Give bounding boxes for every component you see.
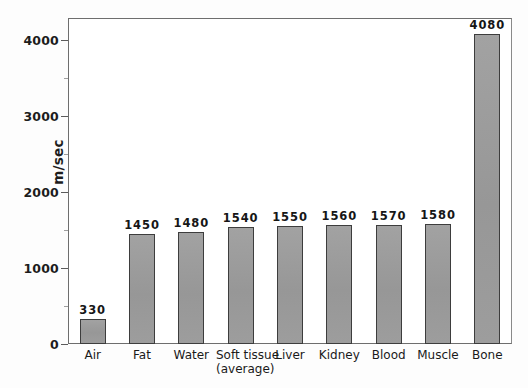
x-axis-label: Water: [167, 349, 216, 363]
bar-rect[interactable]: [425, 224, 451, 344]
plot-area: 01000200030004000 3301450148015401550156…: [68, 18, 512, 344]
bar-value-label: 1550: [272, 210, 308, 224]
y-tick-mark: [61, 116, 68, 117]
x-axis-label: Air: [68, 349, 117, 363]
bar-value-label: 4080: [470, 18, 506, 32]
y-minor-tick-mark: [64, 230, 68, 231]
x-axis-label-line: Muscle: [417, 348, 459, 362]
bar-rect[interactable]: [277, 226, 303, 344]
bar-item[interactable]: 330: [80, 303, 106, 344]
x-axis-label: Kidney: [315, 349, 364, 363]
y-tick-label: 3000: [23, 109, 59, 124]
x-axis-label-line: Fat: [133, 348, 151, 362]
bar-value-label: 1570: [371, 209, 407, 223]
bar-chart: m/sec 01000200030004000 3301450148015401…: [0, 0, 528, 388]
bar-rect[interactable]: [474, 34, 500, 344]
y-tick-mark: [61, 192, 68, 193]
x-axis-label: Liver: [265, 349, 314, 363]
bar-rect[interactable]: [80, 319, 106, 344]
bar-value-label: 1480: [174, 216, 210, 230]
bar-item[interactable]: 1480: [178, 216, 204, 344]
y-tick-label: 4000: [23, 33, 59, 48]
x-axis-label-line: Liver: [275, 348, 304, 362]
x-axis-label-line: Water: [174, 348, 209, 362]
bar-item[interactable]: 4080: [474, 18, 500, 344]
bar-value-label: 1560: [322, 209, 358, 223]
y-minor-tick-mark: [64, 78, 68, 79]
x-axis-label-line: Air: [84, 348, 100, 362]
x-axis-label: Blood: [364, 349, 413, 363]
bar-item[interactable]: 1450: [129, 218, 155, 344]
y-tick-label: 0: [50, 337, 59, 352]
y-tick-label: 2000: [23, 185, 59, 200]
bar-rect[interactable]: [129, 234, 155, 344]
bar-item[interactable]: 1570: [376, 209, 402, 344]
y-tick-label: 1000: [23, 261, 59, 276]
bar-value-label: 1580: [420, 208, 456, 222]
bar-rect[interactable]: [178, 232, 204, 344]
bar-item[interactable]: 1580: [425, 208, 451, 344]
x-axis-label-line: Kidney: [319, 348, 360, 362]
bar-value-label: 1540: [223, 211, 259, 225]
bar-item[interactable]: 1560: [326, 209, 352, 344]
bar-rect[interactable]: [376, 225, 402, 344]
bar-value-label: 330: [79, 303, 106, 317]
bar-item[interactable]: 1550: [277, 210, 303, 344]
x-axis-label-line: Bone: [472, 348, 503, 362]
x-axis-label-line: (average): [216, 363, 265, 377]
x-axis-label: Muscle: [413, 349, 462, 363]
x-axis-label: Bone: [463, 349, 512, 363]
x-axis-label: Fat: [117, 349, 166, 363]
y-tick-mark: [61, 268, 68, 269]
bar-rect[interactable]: [228, 227, 254, 344]
bar-item[interactable]: 1540: [228, 211, 254, 344]
bar-value-label: 1450: [124, 218, 160, 232]
y-tick-mark: [61, 40, 68, 41]
x-axis-label: Soft tissue(average): [216, 349, 265, 376]
bar-rect[interactable]: [326, 225, 352, 344]
y-minor-tick-mark: [64, 154, 68, 155]
y-tick-mark: [61, 344, 68, 345]
x-axis-label-line: Blood: [372, 348, 406, 362]
y-minor-tick-mark: [64, 306, 68, 307]
